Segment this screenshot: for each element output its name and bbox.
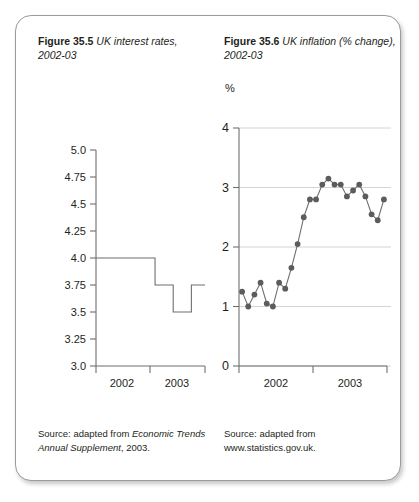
y-label-right-2: 2 <box>222 240 229 254</box>
y-label-right-4: 4 <box>222 121 229 135</box>
data-point-6 <box>276 280 282 286</box>
figure-35-5-panel: Figure 35.5 UK interest rates, 2002-03 3… <box>16 16 209 480</box>
x-label-2002-right: 2002 <box>264 377 288 389</box>
y-label-right-1: 1 <box>222 300 229 314</box>
figure-35-6-chart: 01234 2002 2003 <box>209 16 402 482</box>
data-point-19 <box>356 182 362 188</box>
source-suffix-left: , 2003. <box>121 442 150 453</box>
source-prefix-left: Source: adapted from <box>38 428 132 439</box>
data-point-4 <box>264 301 270 307</box>
x-label-2003-right: 2003 <box>338 377 362 389</box>
y-label-right-0: 0 <box>222 359 229 373</box>
y-label-left-0: 3.0 <box>71 360 86 372</box>
source-line2-right: www.statistics.gov.uk. <box>224 442 316 453</box>
data-point-11 <box>307 197 313 203</box>
data-point-12 <box>313 197 319 203</box>
data-point-1 <box>245 304 251 310</box>
figure-35-5-source: Source: adapted from Economic Trends Ann… <box>38 427 206 454</box>
y-label-left-6: 4.5 <box>71 198 86 210</box>
figures-card: Figure 35.5 UK interest rates, 2002-03 3… <box>15 15 401 481</box>
data-point-18 <box>350 188 356 194</box>
data-point-9 <box>295 241 301 247</box>
data-point-15 <box>332 182 338 188</box>
data-point-8 <box>289 265 295 271</box>
data-point-22 <box>375 217 381 223</box>
y-label-left-7: 4.75 <box>65 171 86 183</box>
data-point-20 <box>363 194 369 200</box>
y-label-left-2: 3.5 <box>71 306 86 318</box>
y-label-left-4: 4.0 <box>71 252 86 264</box>
y-label-left-1: 3.25 <box>65 333 86 345</box>
y-label-left-8: 5.0 <box>71 144 86 156</box>
data-point-17 <box>344 194 350 200</box>
data-point-21 <box>369 211 375 217</box>
data-point-10 <box>301 214 307 220</box>
data-point-7 <box>282 286 288 292</box>
y-label-right-3: 3 <box>222 181 229 195</box>
data-point-2 <box>252 292 258 298</box>
data-point-13 <box>319 182 325 188</box>
data-point-5 <box>270 304 276 310</box>
figure-35-5-chart: 3.03.253.53.754.04.254.54.755.0 2002 200… <box>16 16 209 482</box>
data-point-0 <box>239 289 245 295</box>
data-point-16 <box>338 182 344 188</box>
y-label-left-5: 4.25 <box>65 225 86 237</box>
y-label-left-3: 3.75 <box>65 279 86 291</box>
data-point-23 <box>381 197 387 203</box>
data-point-14 <box>326 176 332 182</box>
figure-35-6-panel: Figure 35.6 UK inflation (% change), 200… <box>209 16 402 480</box>
data-point-3 <box>258 280 264 286</box>
x-label-2003-left: 2003 <box>165 377 189 389</box>
x-label-2002-left: 2002 <box>110 377 134 389</box>
figure-35-6-source: Source: adapted fromwww.statistics.gov.u… <box>224 427 396 454</box>
source-line1-right: Source: adapted from <box>224 428 315 439</box>
